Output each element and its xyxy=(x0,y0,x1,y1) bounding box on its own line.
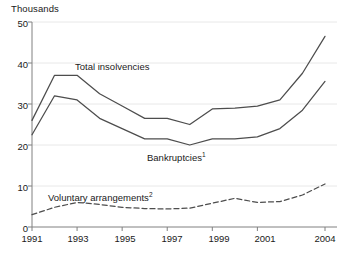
axis-ticks xyxy=(28,22,325,231)
axis-lines xyxy=(32,22,337,227)
series-line-bankruptcies xyxy=(32,81,325,145)
series-line-voluntary-arrangements xyxy=(32,184,325,215)
insolvencies-line-chart: Thousands 50 40 30 20 10 0 1991 1993 199… xyxy=(0,0,340,255)
gridlines xyxy=(32,22,337,186)
series-line-total-insolvencies xyxy=(32,36,325,124)
plot-area xyxy=(0,0,340,255)
